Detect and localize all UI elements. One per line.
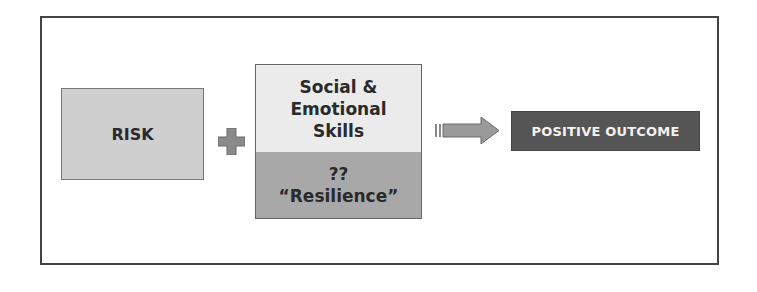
positive-outcome-box: POSITIVE OUTCOME bbox=[511, 111, 700, 151]
resilience-line-2: “Resilience” bbox=[279, 185, 399, 207]
risk-label: RISK bbox=[111, 125, 153, 144]
skills-line-2: Emotional bbox=[290, 98, 386, 120]
resilience-line-1: ?? bbox=[329, 163, 349, 185]
social-emotional-skills-section: Social & Emotional Skills bbox=[256, 65, 421, 153]
arrow-right-icon bbox=[434, 117, 500, 144]
skills-line-3: Skills bbox=[290, 120, 386, 142]
skills-line-1: Social & bbox=[290, 76, 386, 98]
skills-resilience-box: Social & Emotional Skills ?? “Resilience… bbox=[255, 64, 422, 219]
plus-icon bbox=[218, 128, 245, 155]
resilience-section: ?? “Resilience” bbox=[256, 152, 421, 218]
outcome-label: POSITIVE OUTCOME bbox=[531, 124, 679, 139]
risk-box: RISK bbox=[61, 88, 204, 180]
